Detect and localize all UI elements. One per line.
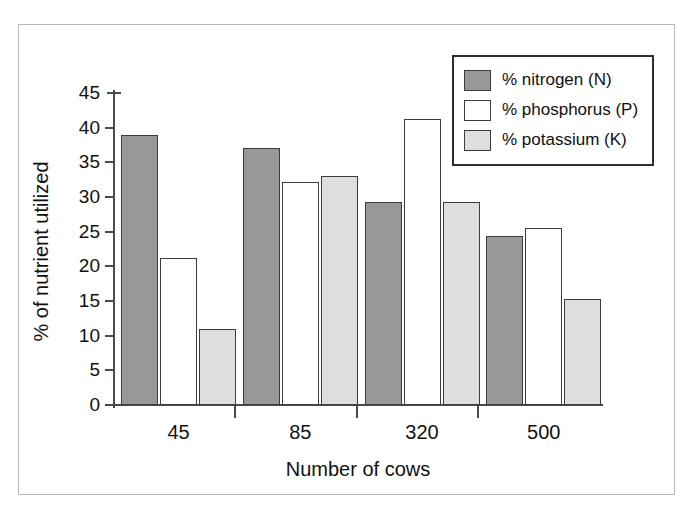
bar-nitrogen-500 [486,236,523,405]
bar-nitrogen-320 [365,202,402,405]
legend-swatch-nitrogen [464,70,491,91]
y-axis-tick-label: 40 [56,118,100,137]
y-axis-tick-label: 35 [56,152,100,171]
legend-label-potassium: % potassium (K) [502,131,627,149]
y-axis-tick-label: 45 [56,83,100,102]
y-axis-tick-label: 10 [56,326,100,345]
legend-item-phosphorus: % phosphorus (P) [464,95,642,125]
x-axis-group-separator [477,405,479,418]
bar-potassium-45 [199,329,236,405]
legend-label-nitrogen: % nitrogen (N) [502,71,612,89]
bar-potassium-85 [321,176,358,405]
bar-nitrogen-45 [121,135,158,405]
x-axis-tick-label-45: 45 [139,421,219,443]
legend-item-potassium: % potassium (K) [464,125,642,155]
bar-phosphorus-45 [160,258,197,405]
bar-phosphorus-320 [404,119,441,405]
legend-swatch-potassium [464,130,491,151]
x-axis-tick-label-500: 500 [504,421,584,443]
x-axis-tick-label-320: 320 [382,421,462,443]
bar-potassium-500 [564,299,601,405]
bar-potassium-320 [443,202,480,405]
y-axis-tick-label: 30 [56,187,100,206]
x-axis-tick-label-85: 85 [260,421,340,443]
legend-label-phosphorus: % phosphorus (P) [502,101,638,119]
y-axis-tick-label: 25 [56,222,100,241]
bar-nitrogen-85 [243,148,280,405]
y-axis-tick-label: 20 [56,256,100,275]
y-axis-tick-label: 15 [56,291,100,310]
legend-swatch-phosphorus [464,100,491,121]
y-axis-title: % of nutrient utilized [30,137,53,367]
y-axis-tick-labels: 051015202530354045 [52,0,100,516]
chart-figure: 051015202530354045 4585320500 Number of … [0,0,691,516]
bar-phosphorus-500 [525,228,562,405]
bar-phosphorus-85 [282,182,319,405]
chart-legend: % nitrogen (N)% phosphorus (P)% potassiu… [452,55,654,166]
y-axis-tick-label: 0 [56,395,100,414]
legend-item-nitrogen: % nitrogen (N) [464,65,642,95]
x-axis-group-separator [356,405,358,418]
x-axis-title: Number of cows [113,458,603,481]
y-axis-tick-label: 5 [56,360,100,379]
x-axis-group-separator [234,405,236,418]
